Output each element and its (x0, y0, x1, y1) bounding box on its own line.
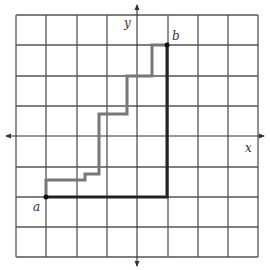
x-axis (5, 134, 265, 139)
lattice-diagram: a b x y (0, 0, 270, 270)
label-x-axis: x (245, 141, 252, 155)
label-a: a (33, 200, 40, 214)
y-axis-arrow-down-icon (135, 261, 140, 267)
y-axis-arrow-up-icon (135, 4, 140, 10)
label-y-axis: y (123, 16, 131, 30)
x-axis-arrow-right-icon (259, 134, 265, 139)
label-b: b (172, 29, 180, 43)
x-axis-arrow-left-icon (5, 134, 11, 139)
point-a (44, 195, 49, 200)
point-b (165, 43, 170, 48)
